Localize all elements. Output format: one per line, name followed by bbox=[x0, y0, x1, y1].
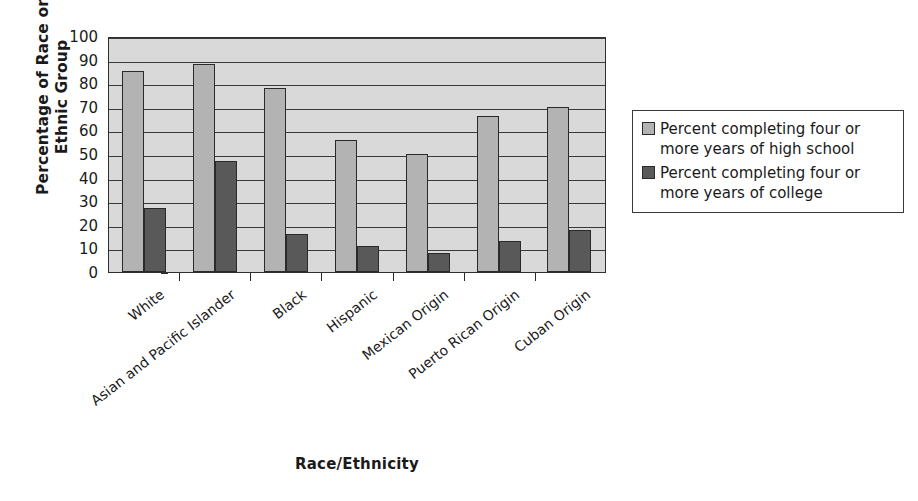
y-tick-label: 60 bbox=[79, 124, 98, 139]
x-axis-category-labels: WhiteAsian and Pacific IslanderBlackHisp… bbox=[0, 283, 620, 398]
y-axis-tick-labels: 1009080706050403020100 bbox=[60, 29, 98, 279]
bar bbox=[406, 154, 428, 272]
y-tick-label: 70 bbox=[79, 101, 98, 116]
y-tick-label: 30 bbox=[79, 195, 98, 210]
y-tick-label: 80 bbox=[79, 77, 98, 92]
bar bbox=[193, 64, 215, 272]
bar-group bbox=[193, 38, 237, 272]
bar bbox=[144, 208, 166, 272]
bar-group bbox=[264, 38, 308, 272]
y-tick-label: 90 bbox=[79, 54, 98, 69]
bar bbox=[264, 88, 286, 272]
bar-group bbox=[406, 38, 450, 272]
legend-label-series-2: Percent completing four or more years of… bbox=[660, 163, 894, 203]
bar bbox=[335, 140, 357, 272]
bar bbox=[477, 116, 499, 272]
legend-item: Percent completing four or more years of… bbox=[642, 163, 894, 203]
x-tick-mark bbox=[393, 273, 394, 281]
legend-swatch-series-2 bbox=[642, 166, 655, 179]
legend-item: Percent completing four or more years of… bbox=[642, 119, 894, 159]
bar bbox=[499, 241, 521, 272]
x-axis-title: Race/Ethnicity bbox=[108, 455, 606, 473]
x-tick-mark bbox=[250, 273, 251, 281]
y-tick-label: 10 bbox=[79, 242, 98, 257]
x-tick-mark bbox=[179, 273, 180, 281]
y-tick-label: 50 bbox=[79, 148, 98, 163]
y-tick-label: 40 bbox=[79, 172, 98, 187]
bar bbox=[122, 71, 144, 272]
bar bbox=[428, 253, 450, 272]
chart-legend: Percent completing four or more years of… bbox=[632, 110, 904, 213]
bar bbox=[547, 107, 569, 272]
bar-group bbox=[335, 38, 379, 272]
bar bbox=[357, 246, 379, 272]
legend-label-series-1: Percent completing four or more years of… bbox=[660, 119, 894, 159]
y-tick-label: 100 bbox=[69, 30, 98, 45]
x-axis-tick-marks bbox=[108, 273, 606, 282]
bar bbox=[569, 230, 591, 272]
y-tick-label: 20 bbox=[79, 219, 98, 234]
x-tick-mark bbox=[535, 273, 536, 281]
bar-chart-figure: Percentage of Race or Ethnic Group 10090… bbox=[0, 0, 918, 501]
bar bbox=[286, 234, 308, 272]
legend-swatch-series-1 bbox=[642, 122, 655, 135]
x-tick-mark bbox=[321, 273, 322, 281]
x-tick-mark bbox=[464, 273, 465, 281]
plot-area bbox=[108, 37, 606, 273]
bar-group bbox=[547, 38, 591, 272]
y-tick-label: 0 bbox=[88, 266, 98, 281]
bar-groups bbox=[109, 38, 605, 272]
bar-group bbox=[122, 38, 166, 272]
bar-group bbox=[477, 38, 521, 272]
bar bbox=[215, 161, 237, 272]
